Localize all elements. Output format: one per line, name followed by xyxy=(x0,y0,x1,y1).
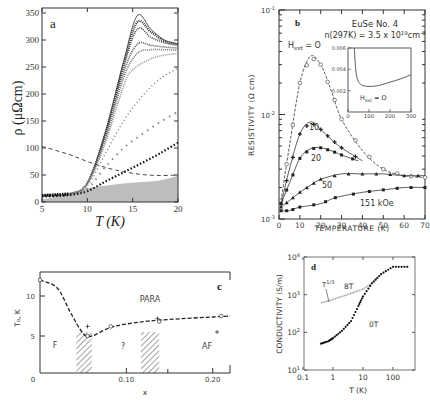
x-tick-label: 10 xyxy=(295,221,305,230)
phase-boundary xyxy=(40,280,230,337)
data-point-plus xyxy=(86,324,90,328)
data-point-0t xyxy=(373,280,375,282)
data-point-0t xyxy=(358,303,360,305)
panel-label: d xyxy=(311,262,316,272)
y-tick-label: 350 xyxy=(26,8,40,18)
data-point-0t xyxy=(360,299,362,301)
panel-c: 51000.100.20xT₀, KcPARAF?AF xyxy=(13,272,230,397)
series-label-8t: 8T xyxy=(344,282,354,291)
inset-x-tick: 200 xyxy=(385,113,396,119)
data-point-0t xyxy=(364,293,366,295)
data-point-0t xyxy=(398,266,400,268)
panel-label: c xyxy=(217,280,222,292)
inset-x-tick: 0 xyxy=(346,113,350,119)
panel-label: b xyxy=(295,18,300,28)
region-label: ? xyxy=(121,342,125,351)
data-point-0t xyxy=(392,266,394,268)
y-tick-label: 0 xyxy=(35,197,40,207)
y-tick-label: 200 xyxy=(26,89,40,99)
data-point xyxy=(220,314,224,318)
region-label: AF xyxy=(202,342,212,351)
inset-y-tick: 0.004 xyxy=(332,66,346,72)
data-point-0t xyxy=(375,279,377,281)
x-tick-label: 10 xyxy=(358,373,368,382)
data-point-0t xyxy=(350,320,352,322)
data-point-0t xyxy=(387,269,389,271)
x-tick-label: 70 xyxy=(420,221,430,230)
panel-label: a xyxy=(50,16,56,31)
y-tick-label: 104 xyxy=(287,252,300,262)
dashed-curve xyxy=(42,146,178,175)
panel-d: 0.1110100101102103104T (K)CONDUCTIVITY (… xyxy=(275,252,415,395)
x-axis-label: TEMPERATURE (K) xyxy=(313,224,389,233)
y-tick-label: 300 xyxy=(26,35,40,45)
y-tick-label: 250 xyxy=(26,62,40,72)
data-point-0t xyxy=(332,337,334,339)
x-axis-label: T (K) xyxy=(95,214,125,230)
y-tick-label: 10-1 xyxy=(261,5,275,15)
y-tick-label: 103 xyxy=(287,290,300,300)
plot-frame xyxy=(42,8,178,202)
panel-a: 0501001502002503003505101520T (K)ρ (μΩcm… xyxy=(10,8,183,230)
data-point-0t xyxy=(334,336,336,338)
region-label: F xyxy=(53,341,58,350)
y-tick-label: 100 xyxy=(26,143,40,153)
data-curve xyxy=(42,21,178,196)
data-point-0t xyxy=(366,290,368,292)
inset-label: Hext = O xyxy=(360,94,387,103)
data-point-plus xyxy=(215,330,219,334)
y-axis-label: ρ (μΩcm) xyxy=(10,80,26,135)
x-tick-label: 10 xyxy=(83,204,93,214)
data-point xyxy=(109,325,113,329)
x-tick-label: 0.20 xyxy=(205,376,221,384)
data-point-0t xyxy=(357,305,359,307)
data-curve xyxy=(42,68,178,195)
data-point-0t xyxy=(378,275,380,277)
annotation-t13: T1/3 xyxy=(321,279,334,289)
data-point-0t xyxy=(403,266,405,268)
x-axis-label: x xyxy=(143,388,148,397)
data-point-0t xyxy=(353,314,355,316)
data-point-0t xyxy=(371,282,373,284)
data-curve xyxy=(42,28,178,196)
y-tick-label: 150 xyxy=(26,116,40,126)
data-curve xyxy=(42,42,178,195)
inset-x-tick: 100 xyxy=(364,113,375,119)
x-tick-label: 0 xyxy=(31,376,35,384)
data-point-0t xyxy=(343,328,345,330)
chart-title: EuSe No. 4 xyxy=(352,19,398,29)
hatched-band xyxy=(76,332,92,373)
data-point-0t xyxy=(346,324,348,326)
x-tick-label: 1 xyxy=(331,373,336,382)
data-point-0t xyxy=(395,266,397,268)
data-point xyxy=(157,320,161,324)
y-tick-label: 10-2 xyxy=(261,110,275,120)
data-point-0t xyxy=(400,266,402,268)
y-tick-label: 10-3 xyxy=(261,214,275,224)
inset-y-tick: 0.002 xyxy=(332,88,346,94)
x-tick-label: 0.10 xyxy=(119,376,135,384)
x-tick-label: 0.1 xyxy=(297,373,309,382)
data-curve xyxy=(281,174,425,208)
data-point-0t xyxy=(336,334,338,336)
data-point-0t xyxy=(348,322,350,324)
data-point-0t xyxy=(390,267,392,269)
y-tick-label: 102 xyxy=(287,327,300,337)
y-tick-label: 5 xyxy=(31,333,35,341)
region-label: PARA xyxy=(140,295,161,304)
data-point-0t xyxy=(361,297,363,299)
figure-canvas: 0501001502002503003505101520T (K)ρ (μΩcm… xyxy=(0,0,430,404)
data-point-0t xyxy=(337,333,339,335)
data-point-0t xyxy=(367,287,369,289)
chart-subtitle: n(297K) = 3.5 x 1019cm-3 xyxy=(324,30,426,40)
data-point-0t xyxy=(406,266,408,268)
data-point-0t xyxy=(380,273,382,275)
data-point-0t xyxy=(354,311,356,313)
y-axis-label: CONDUCTIVITY (S/m) xyxy=(275,274,284,353)
data-point xyxy=(86,334,90,338)
series-label-0t: 0T xyxy=(369,320,379,329)
y-axis-label: T₀, K xyxy=(13,308,22,327)
data-point-0t xyxy=(345,326,347,328)
data-point-0t xyxy=(351,317,353,319)
x-axis-label: T (K) xyxy=(348,386,367,395)
